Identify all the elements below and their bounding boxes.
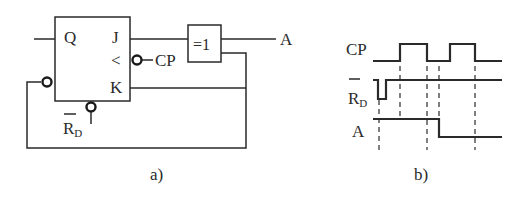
inverted-input-bubble-icon [43,78,52,87]
a-waveform [373,119,502,137]
circuit-diagram: Q J < K CP =1 A RD a) [27,17,293,184]
reset-label: RD [63,119,82,139]
timing-diagram: CP RD A b) [346,40,502,184]
clock-inversion-bubble-icon [133,56,142,65]
caption-a: a) [150,165,163,184]
signal-cp-label: CP [346,40,367,59]
cp-input-label: CP [155,51,176,70]
caption-b: b) [414,165,428,184]
pin-j-label: J [112,28,119,47]
signal-a-label: A [352,122,365,141]
signal-rd-label: RD [348,89,367,109]
cp-waveform [373,44,502,61]
xor-gate-label: =1 [193,36,210,53]
reset-inversion-bubble-icon [87,103,96,112]
pin-clock-label: < [111,51,121,70]
rd-waveform [373,80,502,99]
pin-k-label: K [110,78,123,97]
pin-q-label: Q [64,28,76,47]
circuit-figure: Q J < K CP =1 A RD a) CP [0,0,522,201]
output-a-label: A [280,30,293,49]
